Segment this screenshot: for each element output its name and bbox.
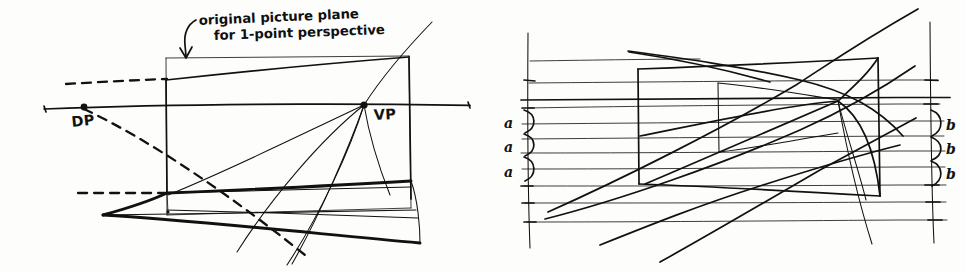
left-scale-label-1: a [504,139,513,155]
sketch-page: original picture plane for 1-point persp… [0,0,966,271]
vp-dot [360,101,367,108]
long-diagonals [545,9,918,262]
sketch-canvas: original picture plane for 1-point persp… [0,0,966,271]
left-scale-label-0: a [504,115,513,131]
ground-tick-dot [166,210,169,213]
grid-lines [521,59,947,222]
annotation-leader-arrow [180,20,196,58]
vp-label: VP [373,106,396,123]
right-scale-label-0: b [946,117,956,133]
horizon-line-right [521,98,950,101]
right-scale-label-1: b [946,141,956,157]
horizon-left-tick [44,106,46,112]
left-scale-label-2: a [504,164,513,180]
right-diagram: a a a b b b [504,9,956,262]
right-scale-label-2: b [946,166,956,182]
left-diagram: original picture plane for 1-point persp… [44,6,470,265]
horizon-line-left [44,104,470,109]
dp-dot [81,104,88,111]
left-brace-group [524,110,534,181]
right-measuring-line [924,22,942,243]
horizon-right-tick [468,102,470,108]
dp-label: DP [71,112,96,130]
